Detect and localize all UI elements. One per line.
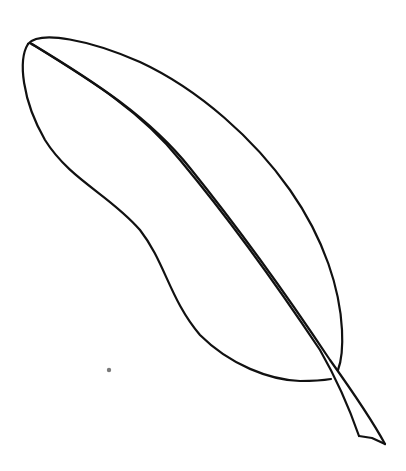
feather-drawing [0, 0, 406, 471]
shaft-line-left [30, 43, 359, 436]
vane-left-edge [23, 44, 331, 381]
ink-speck [107, 368, 111, 372]
vane-right-edge [28, 38, 342, 370]
